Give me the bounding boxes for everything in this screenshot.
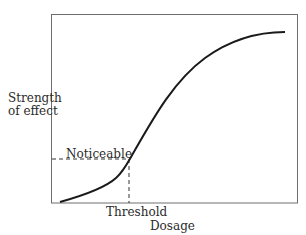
noticeable-label: Noticeable [66,148,132,161]
x-axis-label: Dosage [150,220,195,233]
plot-frame [52,15,298,204]
threshold-label: Threshold [106,206,167,219]
y-axis-label-line-2: of effect [8,105,62,118]
y-axis-label: Strength of effect [8,92,62,118]
dose-response-curve [60,32,285,202]
